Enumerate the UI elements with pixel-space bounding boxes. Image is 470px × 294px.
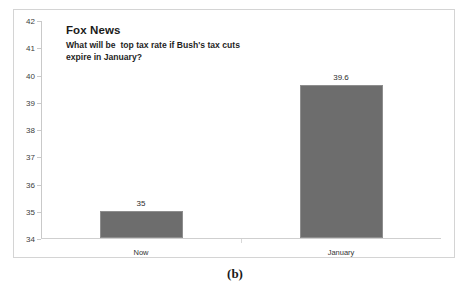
y-axis-tick-label: 35	[26, 207, 35, 216]
bar-value-label: 35	[137, 199, 146, 208]
chart-subtitle: What will be top tax rate if Bush's tax …	[66, 39, 366, 64]
chart-title: Fox News	[66, 24, 366, 36]
y-axis-tick-mark	[37, 185, 41, 186]
y-axis-tick-mark	[37, 239, 41, 240]
y-axis-tick-label: 37	[26, 153, 35, 162]
y-axis-tick-label: 41	[26, 44, 35, 53]
y-axis-tick-label: 42	[26, 17, 35, 26]
y-axis-tick-mark	[37, 48, 41, 49]
y-axis-tick-label: 40	[26, 71, 35, 80]
chart-frame: 343536373839404142 3539.6 NowJanuary Fox…	[13, 9, 455, 258]
y-axis-tick-mark	[37, 103, 41, 104]
y-axis-tick-label: 39	[26, 98, 35, 107]
y-axis-tick-mark	[37, 212, 41, 213]
figure-caption: (b)	[0, 266, 470, 282]
bar-january: 39.6	[300, 85, 383, 238]
x-axis-label-january: January	[328, 248, 355, 257]
y-axis-tick-label: 36	[26, 180, 35, 189]
y-axis-tick-mark	[37, 157, 41, 158]
x-axis-label-now: Now	[133, 248, 148, 257]
y-axis-tick-label: 34	[26, 235, 35, 244]
y-axis-tick-label: 38	[26, 126, 35, 135]
bar-value-label: 39.6	[333, 73, 349, 82]
figure-container: 343536373839404142 3539.6 NowJanuary Fox…	[0, 0, 470, 294]
y-axis-tick-mark	[37, 130, 41, 131]
y-axis-tick-mark	[37, 21, 41, 22]
bar-now: 35	[100, 211, 183, 238]
y-axis-tick-mark	[37, 76, 41, 77]
y-axis-line	[41, 21, 42, 239]
chart-title-block: Fox News What will be top tax rate if Bu…	[66, 24, 366, 64]
x-axis-mid-tick	[241, 239, 242, 243]
